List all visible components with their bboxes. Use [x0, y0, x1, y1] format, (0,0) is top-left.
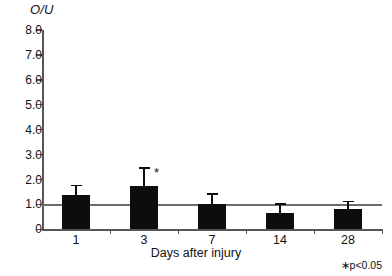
significance-footnote: ∗p<0.05 — [341, 259, 382, 271]
bar-3-days — [130, 186, 158, 230]
y-tick-label: 1.0 — [8, 197, 42, 211]
x-axis-title: Days after injury — [0, 246, 392, 260]
chart-figure: O/U 01.02.03.04.05.06.07.08.0 * 1371428 … — [0, 0, 392, 276]
x-tick-label: 7 — [189, 233, 235, 247]
x-tick-label: 3 — [121, 233, 167, 247]
significance-marker: * — [154, 166, 159, 179]
error-bar-cap — [71, 185, 82, 187]
y-tick-label: 4.0 — [8, 123, 42, 137]
bar-1-days — [62, 195, 90, 230]
error-bar-cap — [139, 167, 150, 169]
y-tick-label: 7.0 — [8, 48, 42, 62]
error-bar-cap — [275, 203, 286, 205]
y-axis-line — [42, 30, 44, 230]
error-bar-stem — [143, 167, 144, 186]
x-tick-mark — [110, 229, 111, 234]
x-tick-label: 1 — [53, 233, 99, 247]
error-bar-cap — [207, 193, 218, 195]
x-tick-label: 14 — [257, 233, 303, 247]
bar-28-days — [334, 209, 362, 229]
x-tick-mark — [246, 229, 247, 234]
y-tick-label: 8.0 — [8, 23, 42, 37]
error-bar-stem — [211, 193, 212, 204]
y-tick-label: 0 — [8, 222, 42, 236]
error-bar-cap — [343, 201, 354, 203]
y-tick-label: 6.0 — [8, 73, 42, 87]
x-tick-label: 28 — [325, 233, 371, 247]
x-tick-mark — [314, 229, 315, 234]
y-tick-label: 5.0 — [8, 98, 42, 112]
y-tick-label: 2.0 — [8, 173, 42, 187]
x-tick-mark — [382, 229, 383, 234]
y-axis-title: O/U — [30, 2, 54, 17]
y-tick-label: 3.0 — [8, 148, 42, 162]
x-axis-line — [42, 229, 382, 231]
bar-14-days — [266, 213, 294, 229]
bar-7-days — [198, 204, 226, 229]
x-tick-mark — [178, 229, 179, 234]
